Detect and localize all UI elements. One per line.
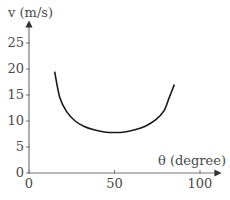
- data-curve: [55, 72, 175, 133]
- y-tick-label: 10: [2, 114, 24, 127]
- y-tick-label: 25: [2, 36, 24, 49]
- x-axis-label: θ (degree): [158, 154, 226, 167]
- y-tick-label: 20: [2, 62, 24, 75]
- y-tick-label: 15: [2, 88, 24, 101]
- y-axis-label: v (m/s): [8, 6, 53, 19]
- chart-plot: [0, 0, 230, 200]
- x-tick-label: 0: [14, 177, 44, 190]
- x-tick-label: 100: [185, 177, 215, 190]
- x-tick-label: 50: [100, 177, 130, 190]
- y-tick-label: 5: [2, 140, 24, 153]
